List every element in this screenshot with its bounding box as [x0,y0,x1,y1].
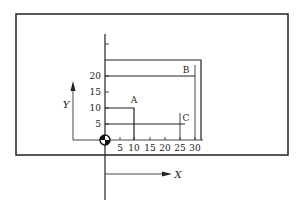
diagram-svg: 5 10 15 20 25 30 5 10 15 20 B A C Y X [0,0,303,208]
y-tick-10: 10 [90,103,102,113]
y-direction-arrow-line [73,90,105,140]
y-tick-5: 5 [95,119,101,129]
y-tick-labels: 5 10 15 20 [90,71,102,129]
x-arrowhead-icon [162,172,172,177]
y-arrowhead-icon [71,81,76,91]
x-tick-5: 5 [117,143,123,153]
y-tick-15: 15 [90,87,102,97]
x-tick-labels: 5 10 15 20 25 30 [117,143,201,153]
y-axis-label: Y [63,99,71,110]
x-tick-20: 20 [159,143,171,153]
y-tick-20: 20 [90,71,102,81]
datum-target-icon [100,135,110,145]
x-tick-25: 25 [174,143,186,153]
feature-a-label: A [130,95,138,105]
x-tick-15: 15 [144,143,156,153]
part-outline [16,14,288,155]
feature-b-label: B [183,65,190,75]
feature-c-label: C [183,113,190,123]
x-axis-label: X [173,169,182,180]
x-tick-30: 30 [189,143,201,153]
x-tick-10: 10 [128,143,140,153]
diagram-canvas: 5 10 15 20 25 30 5 10 15 20 B A C Y X [0,0,303,208]
